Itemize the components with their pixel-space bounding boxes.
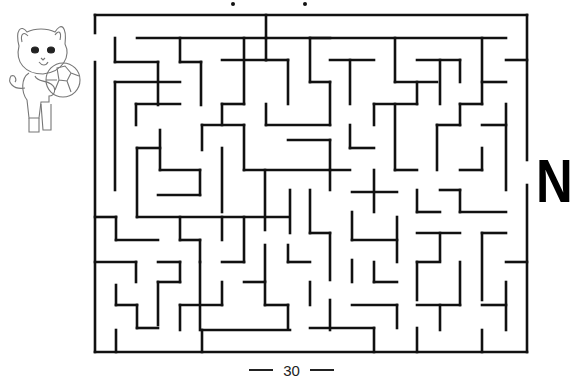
cat-eye-right (48, 47, 55, 53)
soccer-ball-panels (46, 66, 79, 92)
cat-ear-inner (21, 32, 60, 42)
page-number: 30 (283, 362, 300, 379)
title-fragment-marks (231, 2, 307, 6)
maze-exit-letter: N (536, 150, 573, 212)
maze-walls (95, 15, 527, 352)
maze[interactable] (0, 0, 583, 382)
footer-dash-right (310, 369, 334, 371)
cat-with-ball-illustration (5, 18, 87, 138)
cat-mouth (39, 58, 48, 65)
cat-eye-left (32, 47, 39, 53)
footer-dash-left (249, 369, 273, 371)
page-footer: 30 (0, 360, 583, 380)
